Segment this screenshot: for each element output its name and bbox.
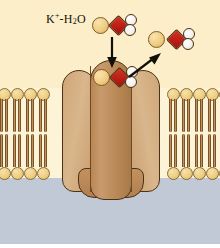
bottom-border <box>0 244 220 248</box>
lipid-molecule <box>193 134 206 180</box>
label-k: K <box>46 12 55 26</box>
potassium-ion <box>93 69 110 86</box>
lipid-tail <box>200 99 203 132</box>
lipid-head <box>206 167 219 180</box>
lipid-tail <box>195 99 198 132</box>
arrow-influx-down <box>104 37 120 69</box>
lipid-tail <box>213 99 216 132</box>
lipid-molecule <box>11 134 24 180</box>
lipid-tail <box>174 134 177 167</box>
lipid-tail <box>174 99 177 132</box>
lipid-molecule <box>180 134 193 180</box>
lipid-tail <box>187 134 190 167</box>
lipid-tail <box>195 134 198 167</box>
lipid-tail <box>18 134 21 167</box>
lipid-tail <box>5 99 8 132</box>
lipid-tail <box>39 134 42 167</box>
label-k-h2o: K+-H2O <box>46 11 86 27</box>
potassium-ion <box>92 17 109 34</box>
lipid-head <box>37 167 50 180</box>
lipid-molecule <box>24 134 37 180</box>
label-o: O <box>77 12 86 26</box>
lipid-molecule <box>167 88 180 134</box>
lipid-head <box>219 88 220 101</box>
water-molecule <box>167 28 195 50</box>
lipid-molecule <box>219 134 220 180</box>
lipid-tail <box>13 134 16 167</box>
lipid-tail <box>44 134 47 167</box>
water-molecule <box>109 14 137 36</box>
lipid-tail <box>169 134 172 167</box>
lipid-tail <box>31 134 34 167</box>
lipid-tail <box>182 134 185 167</box>
lipid-tail <box>0 99 3 132</box>
membrane-channel-diagram: K+-H2O <box>0 0 220 248</box>
lipid-molecule <box>180 88 193 134</box>
label-h: H <box>64 12 73 26</box>
lipid-tail <box>31 99 34 132</box>
lipid-head <box>180 167 193 180</box>
lipid-tail <box>182 99 185 132</box>
potassium-ion <box>148 31 165 48</box>
arrow-release-up-right <box>128 52 162 78</box>
lipid-molecule <box>167 134 180 180</box>
lipid-tail <box>13 99 16 132</box>
lipid-tail <box>5 134 8 167</box>
hydrogen-atom <box>124 24 136 36</box>
hydrogen-atom <box>182 38 194 50</box>
lipid-tail <box>44 99 47 132</box>
lipid-tail <box>26 99 29 132</box>
lipid-tail <box>18 99 21 132</box>
lipid-tail <box>0 134 3 167</box>
lipid-molecule <box>206 134 219 180</box>
lipid-head <box>167 167 180 180</box>
lipid-tail <box>208 99 211 132</box>
lipid-head <box>24 167 37 180</box>
lipid-tail <box>208 134 211 167</box>
lipid-molecule <box>206 88 219 134</box>
lipid-molecule <box>24 88 37 134</box>
lipid-head <box>11 167 24 180</box>
lipid-molecule <box>11 88 24 134</box>
lipid-head <box>0 167 11 180</box>
lipid-head <box>219 167 220 180</box>
lipid-head <box>193 167 206 180</box>
lipid-molecule <box>37 88 50 134</box>
lipid-tail <box>213 134 216 167</box>
lipid-molecule <box>193 88 206 134</box>
lipid-tail <box>39 99 42 132</box>
lipid-molecule <box>37 134 50 180</box>
lipid-molecule <box>0 88 11 134</box>
lipid-molecule <box>0 134 11 180</box>
pore-wall-left <box>90 66 91 192</box>
lipid-tail <box>187 99 190 132</box>
lipid-tail <box>200 134 203 167</box>
lipid-molecule <box>219 88 220 134</box>
lipid-tail <box>169 99 172 132</box>
lipid-tail <box>26 134 29 167</box>
